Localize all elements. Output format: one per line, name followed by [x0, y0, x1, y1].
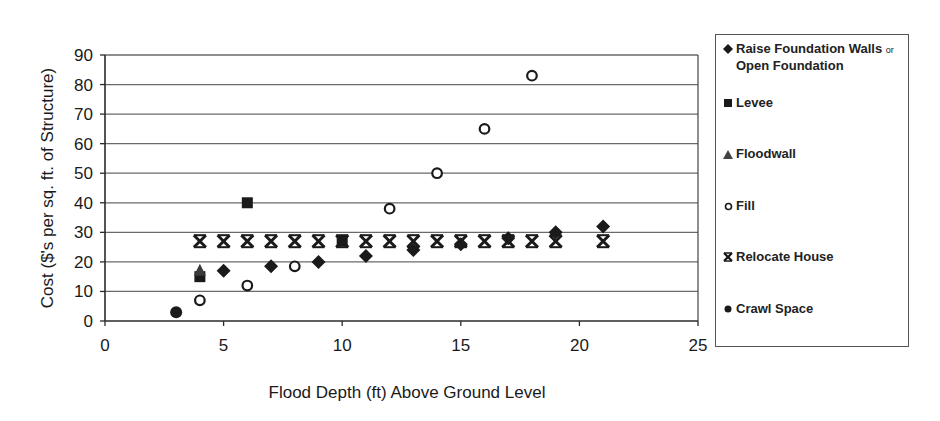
data-point-x-bar [597, 235, 609, 247]
y-axis-title: Cost ($'s per sq. ft. of Structure) [38, 68, 57, 308]
data-point-open-circle [195, 296, 205, 306]
y-tick-label: 20 [74, 253, 93, 272]
data-point-x-bar [289, 235, 301, 247]
data-point-open-circle [527, 71, 537, 81]
diamond-marker-icon [722, 41, 734, 57]
data-point-triangle [194, 264, 206, 276]
legend-item-relocate-house: Relocate House [722, 249, 834, 265]
x-tick-label: 0 [100, 336, 109, 355]
y-tick-label: 30 [74, 223, 93, 242]
square-marker-icon [722, 95, 734, 111]
open-circle-marker-icon [722, 198, 734, 214]
data-point-x-bar [360, 235, 372, 247]
legend-label: Floodwall [736, 146, 796, 162]
data-point-square [337, 236, 348, 247]
y-tick-label: 80 [74, 76, 93, 95]
x-tick-label: 25 [689, 336, 708, 355]
data-point-x-bar [479, 235, 491, 247]
data-point-diamond [454, 237, 468, 251]
legend-item-fill: Fill [722, 198, 755, 214]
legend-label: Fill [736, 198, 755, 214]
data-point-diamond [311, 255, 325, 269]
data-points [170, 71, 610, 318]
y-tick-label: 10 [74, 282, 93, 301]
x-axis-title: Flood Depth (ft) Above Ground Level [269, 383, 546, 402]
legend-item-floodwall: Floodwall [722, 146, 796, 162]
y-tick-label: 40 [74, 194, 93, 213]
legend-label: Relocate House [736, 249, 834, 265]
legend-label: Levee [736, 95, 773, 111]
triangle-marker-icon [722, 146, 734, 162]
data-point-diamond [501, 231, 515, 245]
data-point-x-bar [241, 235, 253, 247]
data-point-x-bar [312, 235, 324, 247]
data-point-open-circle [480, 124, 490, 134]
y-tick-label: 0 [84, 312, 93, 331]
legend: Raise Foundation Walls or Open Foundatio… [715, 34, 909, 347]
legend-label-line2: Open Foundation [736, 58, 844, 73]
legend-label: Crawl Space [736, 301, 813, 317]
data-point-x-bar [431, 235, 443, 247]
data-point-diamond [596, 219, 610, 233]
data-point-x-bar [526, 235, 538, 247]
data-point-filled-circle [170, 306, 182, 318]
filled-circle-marker-icon [722, 301, 734, 317]
legend-item-raise-foundation: Raise Foundation Walls or Open Foundatio… [722, 41, 894, 74]
data-point-open-circle [385, 204, 395, 214]
data-point-x-bar [194, 235, 206, 247]
data-point-x-bar [265, 235, 277, 247]
x-tick-label: 5 [219, 336, 228, 355]
legend-label-suffix: or [886, 45, 894, 55]
data-point-open-circle [243, 281, 253, 291]
data-point-open-circle [432, 168, 442, 178]
x-tick-labels: 0510152025 [100, 336, 707, 355]
data-point-square [242, 197, 253, 208]
data-point-diamond [217, 264, 231, 278]
x-tick-label: 10 [333, 336, 352, 355]
legend-item-levee: Levee [722, 95, 773, 111]
y-tick-label: 50 [74, 164, 93, 183]
x-tick-label: 15 [451, 336, 470, 355]
x-marker-icon [722, 249, 734, 265]
data-point-x-bar [218, 235, 230, 247]
gridlines [105, 55, 698, 291]
y-tick-label: 70 [74, 105, 93, 124]
data-point-x-bar [384, 235, 396, 247]
axes [100, 55, 698, 326]
data-point-open-circle [290, 262, 300, 272]
y-tick-label: 90 [74, 46, 93, 65]
x-tick-label: 20 [570, 336, 589, 355]
data-point-diamond [359, 249, 373, 263]
legend-item-crawl-space: Crawl Space [722, 301, 813, 317]
legend-label: Raise Foundation Walls [736, 41, 882, 56]
y-tick-labels: 0102030405060708090 [74, 46, 93, 331]
y-tick-label: 60 [74, 135, 93, 154]
